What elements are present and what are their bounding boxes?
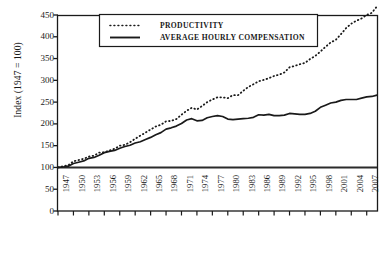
legend: PRODUCTIVITY AVERAGE HOURLY COMPENSATION — [100, 15, 318, 47]
series-average-hourly-compensation — [58, 95, 377, 167]
legend-label-compensation: AVERAGE HOURLY COMPENSATION — [160, 33, 305, 42]
x-tick-marks — [58, 211, 367, 216]
productivity-compensation-chart: Index (1947 = 100) 450400350300250200150… — [0, 0, 388, 259]
plot-area: PRODUCTIVITY AVERAGE HOURLY COMPENSATION — [0, 0, 388, 259]
legend-label-productivity: PRODUCTIVITY — [160, 21, 224, 30]
